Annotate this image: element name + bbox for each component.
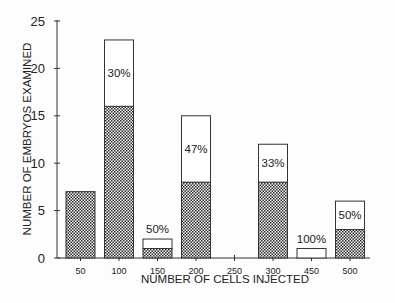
bar-data-label: 50%	[338, 209, 361, 221]
bar-segment-open	[143, 239, 172, 248]
bar-segment-open	[297, 249, 326, 258]
bar-data-label: 47%	[184, 143, 207, 155]
x-tick-label: 100	[111, 266, 126, 276]
y-tick-label: 5	[38, 203, 45, 218]
bar-segment-hatched	[143, 249, 172, 258]
bar-segment-hatched	[66, 192, 95, 258]
x-tick-label: 500	[342, 266, 357, 276]
y-tick-label: 25	[31, 14, 45, 29]
x-axis-title: NUMBER OF CELLS INJECTED	[141, 273, 309, 285]
chart: 051015202550100150200250300450500 30%50%…	[0, 0, 395, 303]
bar-data-label: 30%	[107, 67, 130, 79]
bar-data-label: 100%	[297, 233, 326, 245]
y-axis-title: NUMBER OF EMBRYOS EXAMINED	[21, 43, 33, 236]
y-tick-label: 0	[38, 251, 45, 266]
bar-segment-hatched	[259, 182, 288, 258]
bar-segment-hatched	[105, 106, 134, 258]
x-tick-label: 50	[75, 266, 85, 276]
bar-data-label: 33%	[261, 157, 284, 169]
bar-segment-hatched	[336, 230, 365, 258]
labels: 30%50%47%33%100%50%	[107, 67, 361, 244]
bar-data-label: 50%	[146, 223, 169, 235]
bar-segment-hatched	[182, 182, 211, 258]
